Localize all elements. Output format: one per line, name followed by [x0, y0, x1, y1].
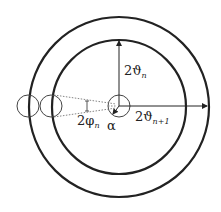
label-alpha: α: [107, 118, 116, 133]
alpha-arrow: [113, 106, 119, 114]
label-phi-n: 2φn: [77, 113, 100, 130]
dotted-line-upper: [54, 95, 116, 104]
diagram-canvas: 2ϑn 2ϑn+1 2φn α: [0, 0, 221, 212]
label-theta-n1: 2ϑn+1: [135, 109, 170, 126]
label-theta-n: 2ϑn: [124, 63, 147, 80]
